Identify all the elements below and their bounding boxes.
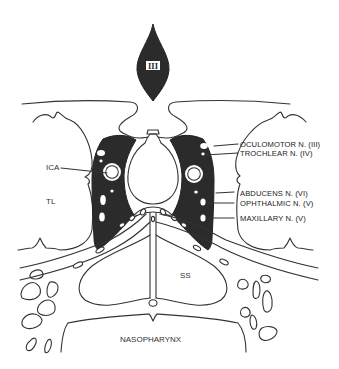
sphenoid-bone <box>20 207 318 352</box>
label-tl: TL <box>46 197 56 206</box>
label-trochlear: TROCHLEAR N. (IV) <box>240 149 313 158</box>
left-cavernous-sinus <box>92 135 136 250</box>
label-ophthalmic: OPHTHALMIC N. (V) <box>240 199 314 208</box>
label-oculomotor: OCULOMOTOR N. (III) <box>240 140 321 149</box>
cavernous-sinus-diagram: III <box>0 0 339 369</box>
label-nasopharynx: NASOPHARYNX <box>120 335 182 344</box>
label-ss: SS <box>180 271 191 280</box>
center-labels: SS NASOPHARYNX <box>120 271 191 344</box>
label-maxillary: MAXILLARY N. (V) <box>240 214 306 223</box>
right-labels: OCULOMOTOR N. (III) TROCHLEAR N. (IV) AB… <box>240 140 321 223</box>
right-cavernous-sinus <box>170 135 214 250</box>
left-labels: ICA TL <box>46 163 60 206</box>
third-ventricle-shape: III <box>137 24 169 101</box>
left-bone-fragments <box>21 270 58 353</box>
right-bone-fragments <box>238 275 277 340</box>
label-ica: ICA <box>46 163 60 172</box>
label-abducens: ABDUCENS N. (VI) <box>240 189 308 198</box>
roman-numeral-iii: III <box>148 61 159 71</box>
